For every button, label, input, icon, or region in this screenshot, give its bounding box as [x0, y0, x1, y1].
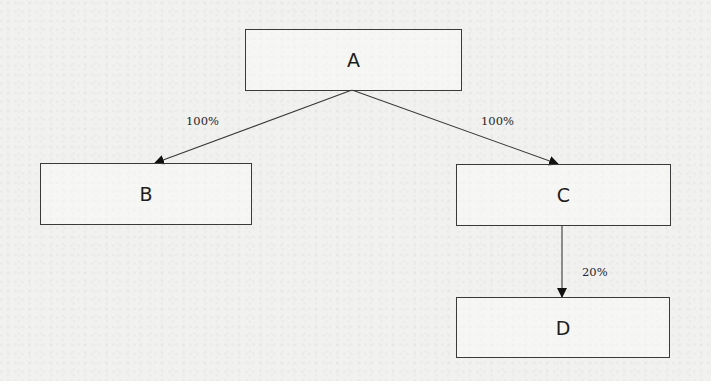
edge-a-to-c	[352, 90, 558, 164]
edge-label-a-b: 100%	[186, 114, 219, 128]
node-b-label: B	[139, 183, 152, 205]
node-c: C	[456, 164, 671, 226]
edge-label-a-c: 100%	[481, 114, 514, 128]
node-b: B	[40, 163, 252, 225]
node-c-label: C	[557, 184, 570, 206]
node-d: D	[456, 297, 670, 358]
edge-a-to-b	[155, 90, 352, 163]
node-a-label: A	[347, 49, 360, 71]
node-d-label: D	[556, 317, 571, 339]
edge-label-c-d: 20%	[582, 265, 608, 279]
node-a: A	[245, 29, 462, 91]
